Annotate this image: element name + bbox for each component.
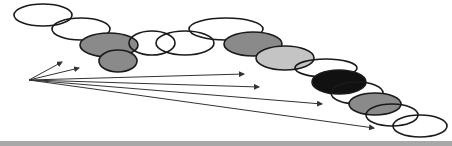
ellipse-e4-filled-gray [99, 50, 137, 72]
arrow-a1 [29, 62, 62, 80]
ellipse-chain [14, 4, 447, 137]
ellipse-e6-outline [156, 31, 214, 55]
ellipse-arrow-diagram [0, 0, 452, 146]
arrow-a4 [29, 80, 259, 87]
bottom-divider-bar [0, 141, 452, 146]
ellipse-e9-filled-light_gray [256, 46, 314, 70]
ellipse-e1-outline [14, 4, 72, 26]
arrow-a3 [29, 74, 244, 80]
arrow-a2 [29, 68, 79, 80]
